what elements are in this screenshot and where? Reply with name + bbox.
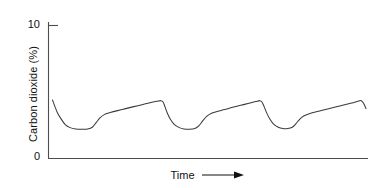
x-axis-title-group: Time <box>48 166 368 184</box>
x-axis-title: Time <box>170 169 194 181</box>
plot-area <box>0 0 375 188</box>
chart-figure: Carbon dioxide (%) 10 0 Time <box>0 0 375 188</box>
data-series-carbon-dioxide <box>53 100 367 129</box>
right-arrow-icon <box>202 170 246 180</box>
